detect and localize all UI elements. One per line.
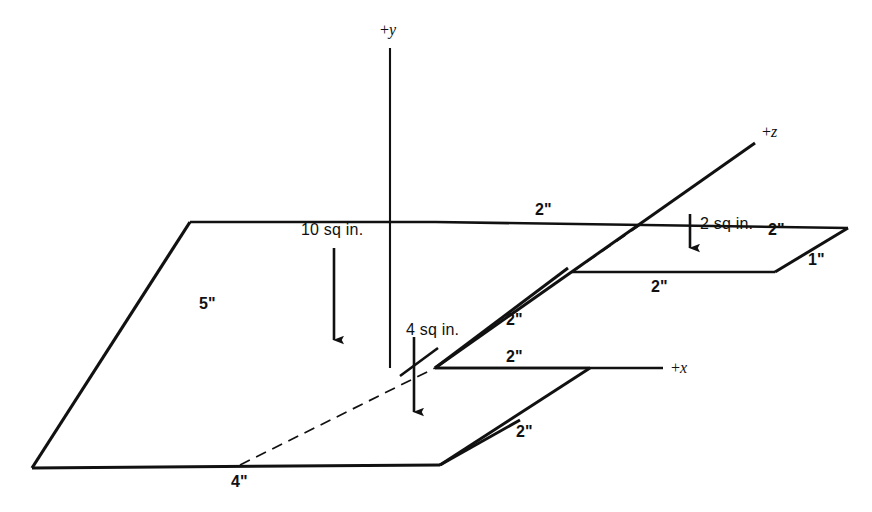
- dimension-label-right-slant: 1": [808, 252, 825, 268]
- x-axis-label-plus: +: [671, 359, 680, 376]
- area-4-leader: [400, 348, 438, 376]
- dimension-label-mid-slant: 2": [506, 312, 523, 328]
- z-axis-label-var: z: [771, 123, 777, 140]
- area-callout-2-sq-in: 2 sq in.: [700, 216, 753, 232]
- area-callout-10-sq-in: 10 sq in.: [301, 222, 363, 238]
- z-axis-label: +z: [762, 124, 777, 140]
- figure-canvas: +y +z +x 10 sq in. 2 sq in. 4 sq in. 5" …: [0, 0, 872, 512]
- right-plate-outline: [435, 222, 848, 272]
- x-axis-label: +x: [671, 360, 687, 376]
- middle-plate-slant-edge: [440, 368, 590, 465]
- y-axis-label-var: y: [389, 21, 396, 38]
- dimension-label-right-top: 2": [768, 222, 785, 238]
- y-axis-label-plus: +: [380, 21, 389, 38]
- y-axis-label: +y: [380, 22, 396, 38]
- large-plate-hidden-edge: [240, 368, 435, 465]
- dimension-label-mid-top: 2": [506, 349, 523, 365]
- dimension-label-mid-bottom: 2": [516, 424, 533, 440]
- x-axis-label-var: x: [680, 359, 687, 376]
- dimension-label-large-top: 2": [535, 202, 552, 218]
- dimension-label-large-bottom: 4": [231, 474, 248, 490]
- large-plate-outline: [32, 222, 520, 468]
- dimension-label-large-slant: 5": [199, 296, 216, 312]
- axis-lines: [390, 48, 755, 368]
- diagram-svg: [0, 0, 872, 512]
- middle-plate-rear-slant-edge: [435, 268, 568, 368]
- z-axis-label-plus: +: [762, 123, 771, 140]
- middle-plate-outline: [435, 268, 590, 465]
- area-callout-4-sq-in: 4 sq in.: [406, 322, 459, 338]
- dimension-label-right-bottom: 2": [651, 279, 668, 295]
- large-plate-left-slant-edge: [32, 222, 190, 468]
- large-plate-bottom-edge: [32, 465, 440, 468]
